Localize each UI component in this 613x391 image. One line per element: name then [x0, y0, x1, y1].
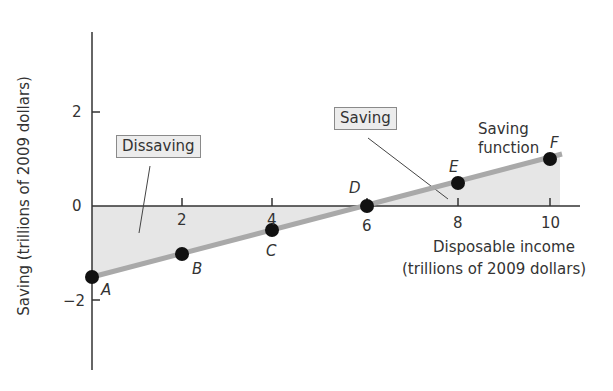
point-c-label: C — [266, 244, 276, 259]
x-tick-label-2: 2 — [177, 213, 187, 228]
saving-function-label-line1: Saving — [478, 122, 529, 137]
y-tick-label-neg2: −2 — [63, 294, 85, 309]
saving-leader-line — [368, 138, 448, 199]
point-a-marker — [85, 270, 99, 284]
point-f-marker — [543, 152, 557, 166]
y-tick-label-2: 2 — [72, 105, 82, 120]
x-tick-label-10: 10 — [541, 216, 560, 231]
x-axis-title-line1: Disposable income — [433, 240, 575, 255]
saving-function-chart — [0, 0, 613, 391]
point-f-label: F — [550, 136, 559, 151]
x-tick-label-6: 6 — [362, 219, 372, 234]
saving-function-label-line2: function — [478, 141, 539, 156]
dissaving-label-box: Dissaving — [116, 135, 201, 158]
x-tick-label-4: 4 — [267, 213, 277, 228]
x-axis-title-line2: (trillions of 2009 dollars) — [402, 262, 586, 277]
x-tick-label-8: 8 — [453, 216, 463, 231]
y-axis-title: Saving (trillions of 2009 dollars) — [15, 76, 33, 316]
point-a-label: A — [101, 283, 111, 298]
point-d-label: D — [349, 181, 361, 196]
y-tick-label-0: 0 — [72, 199, 82, 214]
point-e-label: E — [449, 160, 458, 175]
point-b-label: B — [192, 262, 202, 277]
saving-label-box: Saving — [334, 107, 397, 130]
point-b-marker — [175, 247, 189, 261]
point-d-marker — [360, 199, 374, 213]
point-e-marker — [451, 176, 465, 190]
